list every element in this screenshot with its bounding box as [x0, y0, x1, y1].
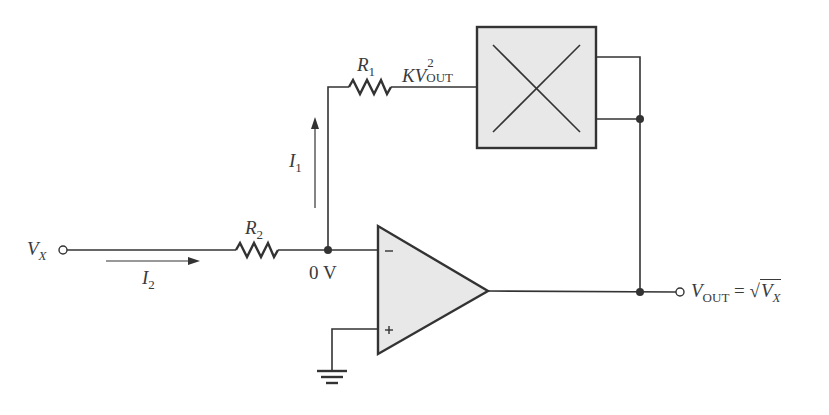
feedback-wire-left: [328, 87, 349, 250]
resistor-r1: [349, 80, 391, 94]
i2-label: I2: [142, 268, 155, 287]
arrowhead-i1-icon: [311, 117, 319, 129]
arrowhead-i2-icon: [188, 257, 200, 265]
output-wire: [488, 291, 676, 292]
summing-junction-dot: [324, 246, 332, 254]
output-label: VOUT = √VX: [691, 281, 781, 300]
output-junction-dot: [636, 288, 644, 296]
multiplier-input-a-wire: [596, 57, 640, 119]
r1-label: R1: [357, 55, 375, 74]
node-voltage-label: 0 V: [309, 263, 337, 282]
multiplier-output-label: KV2OUT: [402, 62, 456, 85]
ground-wire: [332, 329, 378, 370]
input-terminal: [59, 246, 67, 254]
resistor-r2: [236, 243, 278, 257]
output-terminal: [676, 288, 684, 296]
r2-label: R2: [245, 218, 263, 237]
op-amp: [378, 226, 488, 354]
i1-label: I1: [289, 151, 302, 170]
input-label: VX: [27, 239, 47, 258]
multiplier-junction-dot: [636, 115, 644, 123]
